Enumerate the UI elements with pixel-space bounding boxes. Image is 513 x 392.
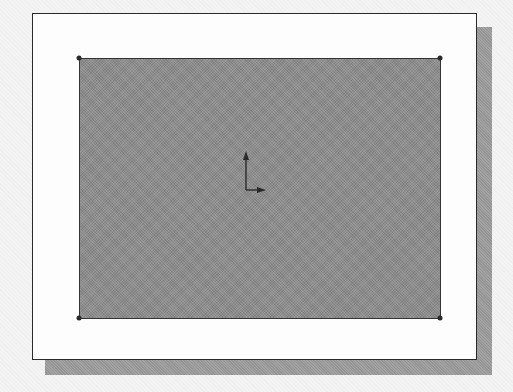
- vertex-bottom-left[interactable]: [77, 316, 82, 321]
- coordinate-axes-icon: [236, 150, 276, 200]
- vertex-top-left[interactable]: [77, 56, 82, 61]
- vertex-top-right[interactable]: [438, 56, 443, 61]
- vertex-bottom-right[interactable]: [438, 316, 443, 321]
